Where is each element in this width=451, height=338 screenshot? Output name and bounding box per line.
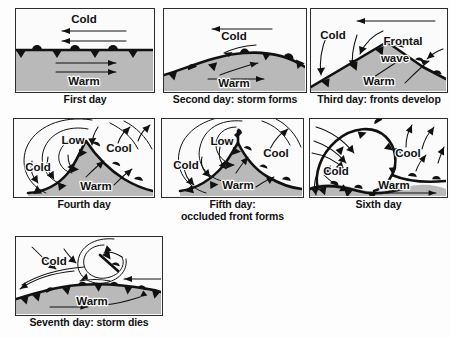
panel-first-day-frame: Cold Warm (15, 8, 155, 93)
label-wave: wave (380, 52, 409, 64)
caption-seventh-day: Seventh day: storm dies (7, 317, 171, 329)
label-frontal: Frontal (384, 35, 423, 47)
third-day-diagram: Cold Frontal wave Warm (311, 9, 446, 91)
label-cool: Cool (395, 147, 421, 159)
label-cold: Cold (71, 13, 97, 25)
panel-fifth-day: Low Cold Cool Warm Fifth day: occluded f… (161, 118, 304, 223)
caption-fifth-day: Fifth day: occluded front forms (149, 199, 316, 222)
seventh-day-diagram: Cold Warm (16, 237, 161, 314)
label-warm: Warm (218, 77, 250, 89)
panel-fifth-day-frame: Low Cold Cool Warm (161, 118, 304, 198)
panel-seventh-day: Cold Warm Seventh day: storm dies (15, 236, 163, 331)
panel-third-day-frame: Cold Frontal wave Warm (310, 8, 448, 93)
label-warm: Warm (76, 295, 108, 307)
first-day-diagram: Cold Warm (16, 9, 153, 91)
panel-sixth-day: Cold Cool Warm Sixth day (309, 118, 448, 213)
label-warm: Warm (80, 180, 112, 192)
label-low: Low (211, 135, 234, 147)
second-day-diagram: Cold Warm (164, 9, 305, 91)
label-low: Low (62, 134, 85, 146)
label-cold: Cold (323, 165, 349, 177)
label-warm: Warm (363, 75, 395, 87)
sixth-day-diagram: Cold Cool Warm (310, 119, 446, 196)
label-cold: Cold (25, 161, 51, 173)
fourth-day-diagram: Low Cold Cool Warm (14, 119, 153, 196)
label-cold: Cold (173, 159, 199, 171)
label-warm: Warm (68, 75, 100, 87)
panel-second-day: Cold Warm Second day: storm forms (163, 8, 307, 103)
label-cold: Cold (41, 255, 67, 267)
caption-fourth-day: Fourth day (13, 199, 155, 211)
label-cold: Cold (320, 29, 346, 41)
label-warm: Warm (222, 179, 254, 191)
label-warm: Warm (378, 179, 410, 191)
label-cold: Cold (221, 30, 247, 42)
panel-first-day: Cold Warm First day (15, 8, 155, 103)
panel-seventh-day-frame: Cold Warm (15, 236, 163, 316)
caption-first-day: First day (15, 94, 155, 106)
panel-second-day-frame: Cold Warm (163, 8, 307, 93)
caption-third-day: Third day: fronts develop (298, 94, 451, 106)
panel-fourth-day-frame: Low Cold Cool Warm (13, 118, 155, 198)
label-cool: Cool (106, 142, 132, 154)
fifth-day-diagram: Low Cold Cool Warm (162, 119, 302, 196)
caption-second-day: Second day: storm forms (153, 94, 317, 106)
label-cool: Cool (263, 147, 289, 159)
caption-sixth-day: Sixth day (309, 199, 448, 211)
panel-fourth-day: Low Cold Cool Warm Fourth day (13, 118, 155, 213)
panel-third-day: Cold Frontal wave Warm Third day: fronts… (310, 8, 448, 103)
panel-sixth-day-frame: Cold Cool Warm (309, 118, 448, 198)
